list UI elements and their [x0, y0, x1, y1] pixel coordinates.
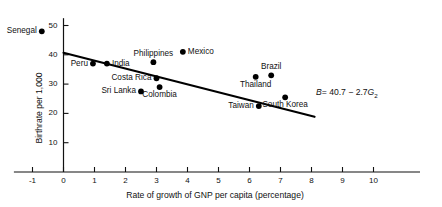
data-point-label: Costa Rica	[111, 74, 151, 82]
x-tick-label: 0	[61, 177, 65, 185]
data-point-label: India	[112, 59, 130, 67]
regression-equation-label: B= 40.7 − 2.7G2	[316, 87, 378, 99]
data-point-label: Thailand	[240, 81, 271, 89]
x-tick-label: 8	[309, 177, 313, 185]
y-tick-label: 40	[42, 51, 58, 59]
x-tick-label: 4	[185, 177, 189, 185]
data-point-marker	[268, 72, 274, 78]
data-point-label: South Korea	[262, 101, 308, 109]
y-axis-title: Birthrate per 1,000	[34, 72, 44, 143]
x-tick-label: 7	[278, 177, 282, 185]
data-point-label: Sri Lanka	[101, 87, 136, 95]
x-tick-label: -1	[29, 177, 36, 185]
x-tick-label: 1	[92, 177, 96, 185]
data-point-marker	[256, 103, 262, 109]
equation-rhs: = 40.7 − 2.7	[322, 87, 368, 97]
data-point-label: Senegal	[7, 27, 37, 35]
x-tick-label: 6	[247, 177, 251, 185]
equation-g-subscript: 2	[374, 92, 377, 99]
x-tick-label: 10	[369, 177, 378, 185]
data-point-label: Peru	[71, 59, 88, 67]
data-point-marker	[180, 49, 186, 55]
x-axis-title: Rate of growth of GNP per capita (percen…	[126, 190, 304, 200]
data-point-label: Mexico	[188, 48, 214, 56]
x-tick-label: 5	[216, 177, 220, 185]
data-point-marker	[154, 75, 160, 81]
x-tick-label: 3	[154, 177, 158, 185]
data-point-label: Taiwan	[228, 102, 254, 110]
data-point-label: Brazil	[261, 63, 281, 71]
data-point-label: Colombia	[142, 91, 177, 99]
data-point-marker	[90, 61, 96, 67]
x-tick-label: 9	[340, 177, 344, 185]
x-tick-label: 2	[123, 177, 127, 185]
y-tick-label: 50	[42, 22, 58, 30]
data-point-marker	[151, 59, 157, 65]
data-point-label: Philippines	[134, 50, 174, 58]
birthrate-gnp-scatter-chart: 1020304050 -1012345678910 SenegalPeruInd…	[0, 0, 442, 207]
data-point-marker	[104, 61, 110, 67]
